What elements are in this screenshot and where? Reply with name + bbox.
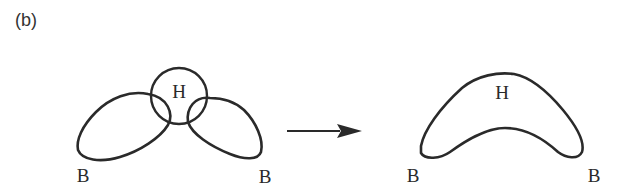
arrow-icon (287, 124, 362, 138)
bonding-diagram: H B B H B B (0, 0, 627, 194)
right-b-lobe (188, 98, 262, 158)
left-orbital-diagram: H B B (77, 68, 272, 187)
left-h-label: H (172, 81, 186, 102)
right-b-label-left: B (407, 165, 420, 186)
left-b-label-right: B (259, 166, 272, 187)
left-b-lobe (78, 93, 171, 160)
right-h-label: H (495, 82, 509, 103)
left-b-label-left: B (77, 165, 90, 186)
right-orbital-diagram: H B B (407, 73, 601, 186)
right-b-label-right: B (588, 165, 601, 186)
